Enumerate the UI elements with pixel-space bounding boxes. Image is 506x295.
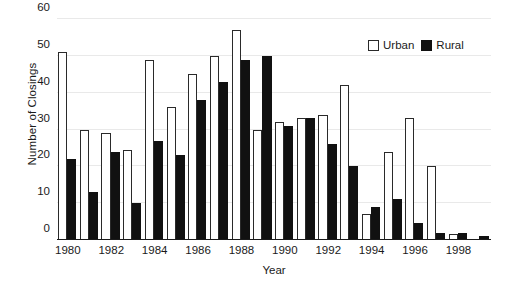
bar-rural-1993	[349, 166, 358, 240]
bar-urban-1983	[123, 150, 132, 240]
bar-group	[469, 19, 491, 240]
bar-urban-1988	[232, 30, 241, 240]
x-axis-tick-label: 1996	[402, 244, 428, 256]
y-axis-tick-label: 50	[37, 38, 50, 50]
bar-group	[144, 19, 166, 240]
bar-rural-1995	[393, 199, 402, 240]
x-axis-tick-label: 1988	[229, 244, 255, 256]
bar-group	[404, 19, 426, 240]
bar-urban-1980	[58, 52, 67, 240]
bar-urban-1990	[275, 122, 284, 240]
bar-rural-1980	[67, 159, 76, 240]
bar-rural-1990	[284, 126, 293, 240]
legend-swatch-urban-icon	[368, 40, 379, 51]
bar-group	[448, 19, 470, 240]
bar-urban-1993	[340, 85, 349, 240]
x-axis-tick-label: 1998	[446, 244, 472, 256]
legend-item-rural: Rural	[421, 40, 463, 52]
bar-group	[231, 19, 253, 240]
bar-group	[339, 19, 361, 240]
x-axis-tick-label: 1986	[185, 244, 211, 256]
bar-urban-1981	[80, 130, 89, 241]
bar-group	[209, 19, 231, 240]
bar-urban-1994	[362, 214, 371, 240]
bar-chart: Number of Closings 0102030405060 1980198…	[0, 0, 506, 295]
x-axis-tick-label: 1982	[98, 244, 124, 256]
bar-group	[57, 19, 79, 240]
bar-urban-1984	[145, 60, 154, 240]
bar-group	[187, 19, 209, 240]
bar-group	[361, 19, 383, 240]
x-axis-line	[57, 239, 491, 241]
y-axis-tick-label: 60	[37, 1, 50, 13]
x-axis-tick-label: 1990	[272, 244, 298, 256]
bar-rural-1994	[371, 207, 380, 240]
bar-rural-1986	[197, 100, 206, 240]
bar-group	[296, 19, 318, 240]
bar-urban-1987	[210, 56, 219, 240]
bar-rural-1987	[219, 82, 228, 240]
bar-urban-1992	[318, 115, 327, 240]
bar-rural-1989	[262, 56, 271, 240]
bar-rural-1991	[306, 118, 315, 240]
bar-group	[100, 19, 122, 240]
bar-group	[122, 19, 144, 240]
chart-legend: Urban Rural	[368, 40, 464, 52]
bar-group	[252, 19, 274, 240]
bar-group	[79, 19, 101, 240]
bar-group	[383, 19, 405, 240]
legend-item-urban: Urban	[368, 40, 414, 52]
x-axis-tick-label: 1980	[55, 244, 81, 256]
y-axis-tick-label: 0	[44, 222, 50, 234]
bar-group	[426, 19, 448, 240]
bar-group	[166, 19, 188, 240]
x-axis-ticks: 1980198219841986198819901992199419961998	[57, 244, 491, 264]
y-axis-tick-label: 10	[37, 185, 50, 197]
bar-urban-1997	[427, 166, 436, 240]
bar-rural-1988	[241, 60, 250, 240]
legend-swatch-rural-icon	[421, 40, 432, 51]
x-axis-tick-label: 1992	[315, 244, 341, 256]
bar-rural-1982	[111, 152, 120, 240]
y-axis-tick-label: 20	[37, 148, 50, 160]
bar-group	[317, 19, 339, 240]
bar-urban-1986	[188, 74, 197, 240]
bar-rural-1992	[328, 144, 337, 240]
x-axis-tick-label: 1984	[142, 244, 168, 256]
x-axis-tick-label: 1994	[359, 244, 385, 256]
plot-area: 0102030405060	[57, 19, 491, 240]
bar-urban-1989	[253, 130, 262, 241]
bar-urban-1991	[297, 118, 306, 240]
bar-rural-1984	[154, 141, 163, 240]
legend-label-rural: Rural	[436, 40, 463, 52]
x-axis-title: Year	[57, 264, 491, 276]
bar-urban-1995	[384, 152, 393, 240]
bar-rural-1983	[132, 203, 141, 240]
bar-urban-1985	[167, 107, 176, 240]
legend-label-urban: Urban	[383, 40, 414, 52]
bar-group	[274, 19, 296, 240]
y-axis-tick-label: 40	[37, 75, 50, 87]
bar-urban-1982	[101, 133, 110, 240]
y-axis-title: Number of Closings	[26, 34, 38, 194]
bar-rural-1981	[89, 192, 98, 240]
y-axis-tick-label: 30	[37, 112, 50, 124]
bar-series-container	[57, 19, 491, 240]
bar-urban-1996	[405, 118, 414, 240]
bar-rural-1985	[176, 155, 185, 240]
